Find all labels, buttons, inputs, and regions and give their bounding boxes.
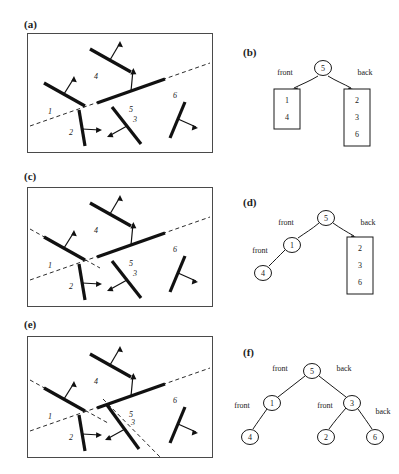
tree-d-back-label: back xyxy=(360,218,375,227)
tree-d-back-item-3: 6 xyxy=(358,278,362,287)
tree-d-svg: 5 front 1 front 4 back 2 3 6 xyxy=(248,207,390,307)
tree-b-edge-front xyxy=(294,76,318,88)
segment-1 xyxy=(44,388,85,411)
segment-6-label: 6 xyxy=(173,396,177,405)
segment-3-label: 3 xyxy=(132,269,137,278)
segment-4 xyxy=(90,49,131,72)
tree-b-front-label: front xyxy=(277,68,293,77)
segment-4 xyxy=(90,354,131,377)
tree-f-edge-5-front xyxy=(278,376,305,397)
segment-2 xyxy=(79,415,85,451)
panel-label-a: (a) xyxy=(24,18,37,30)
tree-f-node-2-label: 2 xyxy=(324,433,328,442)
tree-f-node-3-label: 3 xyxy=(350,399,354,408)
tree-f-node1-front-label: front xyxy=(234,401,250,410)
segment-1-label: 1 xyxy=(48,261,52,270)
segment-2-normal-arrow xyxy=(96,432,102,438)
segment-2-label: 2 xyxy=(69,433,73,442)
tree-b-front-item-1: 1 xyxy=(285,96,289,105)
segment-1 xyxy=(44,83,85,106)
scene-panel-e: 1 4 5 2 3 6 xyxy=(27,336,213,458)
segment-4-normal-arrow xyxy=(117,195,123,201)
segment-2 xyxy=(79,264,85,300)
segment-1-label: 1 xyxy=(48,412,52,421)
segment-1-normal-arrow xyxy=(71,76,77,82)
tree-d-front-label-child: front xyxy=(252,246,268,255)
segment-4-label: 4 xyxy=(94,72,98,81)
segment-1-normal-arrow xyxy=(71,230,77,236)
segment-6-label: 6 xyxy=(173,91,177,100)
tree-d-back-item-1: 2 xyxy=(358,244,362,253)
segment-2-label: 2 xyxy=(69,128,73,137)
segment-4-label: 4 xyxy=(94,377,98,386)
segment-2-label: 2 xyxy=(69,282,73,291)
segment-3-label: 3 xyxy=(132,115,137,124)
tree-f-root-front-label: front xyxy=(272,364,288,373)
segment-5-label: 5 xyxy=(129,105,133,114)
tree-f-edge-1-front xyxy=(253,409,267,429)
tree-f-edge-3-front xyxy=(329,408,346,429)
scene-panel-c: 1 4 5 2 3 6 xyxy=(27,187,213,307)
panel-label-e: (e) xyxy=(24,318,36,330)
tree-b-edge-back xyxy=(328,76,351,88)
tree-b-back-item-2: 3 xyxy=(355,113,359,122)
tree-f-node3-back-label: back xyxy=(375,407,390,416)
tree-b-back-label: back xyxy=(357,68,372,77)
tree-f-node-5-label: 5 xyxy=(310,367,314,376)
tree-d-edge-1-front xyxy=(269,250,285,266)
segment-3 xyxy=(112,261,141,298)
segment-3-label: 3 xyxy=(130,418,135,427)
tree-f-node-6-label: 6 xyxy=(373,433,377,442)
tree-f-node-4-label: 4 xyxy=(248,433,252,442)
tree-d-node-4-label: 4 xyxy=(261,269,265,278)
tree-f-node3-front-label: front xyxy=(317,401,333,410)
segment-2-normal-arrow xyxy=(96,127,102,133)
segment-2 xyxy=(79,110,85,146)
scene-panel-a: 1 4 5 2 3 6 xyxy=(27,33,213,153)
segment-3 xyxy=(107,405,139,449)
tree-f-edge-5-back xyxy=(319,376,346,397)
figure-root: (a) 1 4 5 2 xyxy=(0,0,399,474)
tree-b-front-item-2: 4 xyxy=(285,113,289,122)
tree-d-edge-back xyxy=(333,223,354,236)
segment-6 xyxy=(170,256,185,292)
segment-4-normal-arrow xyxy=(117,346,123,352)
tree-b-back-item-1: 2 xyxy=(355,96,359,105)
tree-b-back-item-3: 6 xyxy=(355,130,359,139)
scene-c-svg: 1 4 5 2 3 6 xyxy=(28,188,212,306)
split-line-3 xyxy=(103,399,160,457)
tree-b-node-5-label: 5 xyxy=(321,64,325,73)
tree-f-node-1-label: 1 xyxy=(270,399,274,408)
segment-2-normal-arrow xyxy=(96,281,102,287)
scene-e-svg: 1 4 5 2 3 6 xyxy=(28,337,212,457)
segment-5-label: 5 xyxy=(129,259,133,268)
tree-d-edge-5-front xyxy=(298,223,319,238)
segment-6-label: 6 xyxy=(173,245,177,254)
segment-1-label: 1 xyxy=(48,107,52,116)
tree-d-node-5-label: 5 xyxy=(324,214,328,223)
tree-b-svg: 5 front back 1 4 2 3 6 xyxy=(258,58,388,153)
segment-1-normal-arrow xyxy=(71,381,77,387)
tree-d-front-label-root: front xyxy=(278,218,294,227)
segment-3 xyxy=(112,107,141,144)
panel-label-f: (f) xyxy=(243,346,254,358)
tree-d-back-item-2: 3 xyxy=(358,261,362,270)
segment-6 xyxy=(170,102,185,138)
tree-f-edge-3-back xyxy=(358,409,372,429)
segment-1 xyxy=(44,237,85,260)
segment-4-label: 4 xyxy=(94,226,98,235)
scene-a-svg: 1 4 5 2 3 6 xyxy=(28,34,212,152)
panel-label-b: (b) xyxy=(243,46,256,58)
tree-b-front-list-box xyxy=(274,89,300,129)
panel-label-c: (c) xyxy=(24,170,36,182)
segment-6 xyxy=(170,407,185,443)
segment-4 xyxy=(90,203,131,226)
tree-f-svg: 5 front back 1 3 front 4 front back 2 6 xyxy=(228,358,396,468)
tree-f-root-back-label: back xyxy=(336,364,351,373)
tree-d-node-1-label: 1 xyxy=(290,241,294,250)
segment-4-normal-arrow xyxy=(117,41,123,47)
